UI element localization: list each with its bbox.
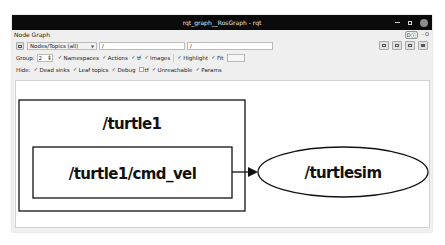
group-spinbox[interactable]: 2 ▲▼: [37, 54, 53, 62]
check-icon: ✓: [195, 67, 200, 72]
unchecked-box-icon: [139, 67, 144, 72]
namespace-label: /turtle1: [103, 115, 162, 133]
minimize-button[interactable]: [395, 22, 400, 23]
checkbox-fit[interactable]: ✓Fit: [211, 55, 223, 61]
group-options-row: Group: 2 ▲▼ ✓Namespaces ✓Actions ✓tf ✓Im…: [16, 53, 245, 62]
checkbox-params[interactable]: ✓Params: [195, 67, 221, 73]
check-icon: ✓: [211, 55, 216, 60]
chevron-down-icon: ▼: [91, 44, 94, 49]
hide-label: Hide:: [16, 67, 30, 73]
checkbox-label: Debug: [117, 67, 135, 73]
graph-canvas[interactable]: /turtle1 /turtle1/cmd_vel /turtlesim: [15, 80, 430, 228]
checkbox-debug[interactable]: ✓Debug: [111, 67, 135, 73]
group-label: Group:: [16, 55, 35, 61]
checkbox-tf[interactable]: ✓tf: [131, 55, 141, 61]
fit-in-view-button[interactable]: [227, 54, 245, 62]
title-bar[interactable]: rqt_graph__RosGraph - rqt: [12, 15, 432, 30]
node-label: /turtlesim: [305, 164, 382, 182]
rqt-window: rqt_graph__RosGraph - rqt Node Graph Dⓘ …: [12, 15, 432, 232]
check-icon: ✓: [58, 55, 63, 60]
checkbox-hide-tf[interactable]: tf: [139, 67, 149, 73]
check-icon: ✓: [102, 55, 107, 60]
check-icon: ✓: [177, 55, 182, 60]
check-icon: ✓: [111, 67, 116, 72]
spin-arrows-icon[interactable]: ▲▼: [48, 55, 50, 61]
plugin-close-button[interactable]: - O: [422, 30, 429, 39]
checkbox-highlight[interactable]: ✓Highlight: [177, 55, 208, 61]
checkbox-label: Dead sinks: [39, 67, 69, 73]
checkbox-label: Namespaces: [64, 55, 99, 61]
graph-mode-value: Nodes/Topics (all): [30, 43, 78, 49]
check-icon: ✓: [144, 55, 149, 60]
close-button[interactable]: [420, 19, 428, 27]
refresh-icon: [18, 45, 22, 48]
topic-label: /turtle1/cmd_vel: [69, 165, 196, 183]
checkbox-leaf-topics[interactable]: ✓Leaf topics: [73, 67, 109, 73]
check-icon: ✓: [73, 67, 78, 72]
topic-filter-input[interactable]: /: [187, 42, 273, 50]
node-filter-input[interactable]: /: [99, 42, 185, 50]
toolbar-row: Nodes/Topics (all) ▼ / /: [16, 41, 428, 51]
checkbox-label: Params: [201, 67, 221, 73]
group-value: 2: [39, 55, 43, 61]
checkbox-label: tf: [137, 55, 141, 61]
check-icon: ✓: [152, 67, 157, 72]
node-turtlesim[interactable]: /turtlesim: [258, 147, 428, 197]
topic-node-cmd-vel[interactable]: /turtle1/cmd_vel: [33, 147, 232, 198]
load-dot-button[interactable]: [379, 41, 389, 50]
checkbox-label: Highlight: [183, 55, 208, 61]
check-icon: ✓: [131, 55, 136, 60]
checkbox-label: Unreachable: [158, 67, 193, 73]
plugin-help-button[interactable]: Dⓘ: [405, 31, 418, 39]
graph-mode-select[interactable]: Nodes/Topics (all) ▼: [27, 42, 97, 50]
checkbox-label: tf: [145, 67, 149, 73]
checkbox-label: Leaf topics: [79, 67, 109, 73]
save-image-icon: [421, 44, 425, 47]
window-title: rqt_graph__RosGraph - rqt: [183, 19, 262, 26]
checkbox-actions[interactable]: ✓Actions: [102, 55, 128, 61]
save-dot-icon: [395, 44, 399, 47]
save-svg-icon: [408, 44, 412, 47]
folder-icon: [382, 44, 386, 47]
arrowhead-icon: [248, 167, 258, 177]
checkbox-namespaces[interactable]: ✓Namespaces: [58, 55, 99, 61]
checkbox-dead-sinks[interactable]: ✓Dead sinks: [33, 67, 69, 73]
checkbox-label: Actions: [108, 55, 128, 61]
refresh-button[interactable]: [16, 42, 24, 50]
save-image-button[interactable]: [418, 41, 428, 50]
save-svg-button[interactable]: [405, 41, 415, 50]
checkbox-unreachable[interactable]: ✓Unreachable: [152, 67, 193, 73]
toolbar-separator: [173, 54, 174, 62]
checkbox-label: Images: [150, 55, 170, 61]
plugin-header: Node Graph Dⓘ - O: [12, 30, 432, 39]
maximize-button[interactable]: [408, 21, 412, 25]
checkbox-label: Fit: [217, 55, 223, 61]
hide-options-row: Hide: ✓Dead sinks ✓Leaf topics ✓Debug tf…: [16, 65, 222, 74]
save-dot-button[interactable]: [392, 41, 402, 50]
plugin-title: Node Graph: [14, 30, 50, 39]
check-icon: ✓: [33, 67, 38, 72]
namespace-box-turtle1[interactable]: /turtle1: [19, 100, 245, 211]
checkbox-images[interactable]: ✓Images: [144, 55, 170, 61]
